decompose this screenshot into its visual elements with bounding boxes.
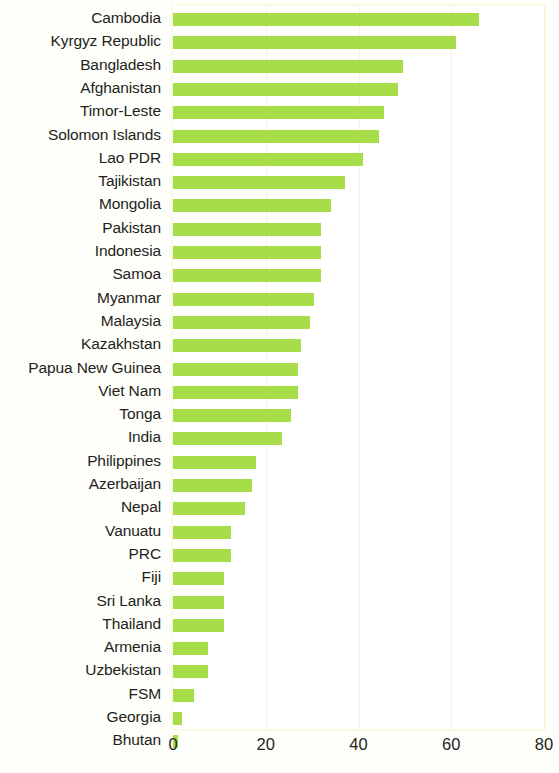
- bar-row: [173, 544, 544, 567]
- bar: [173, 409, 291, 422]
- bar: [173, 153, 363, 166]
- gridline-80: [544, 6, 545, 729]
- category-label: Armenia: [104, 635, 161, 658]
- bar: [173, 386, 298, 399]
- bar-row: [173, 427, 544, 450]
- category-label: Nepal: [121, 495, 161, 518]
- bar: [173, 596, 224, 609]
- category-label: Uzbekistan: [85, 658, 161, 681]
- bar: [173, 479, 252, 492]
- bar: [173, 176, 345, 189]
- x-tick-label: 0: [168, 735, 177, 754]
- bar-row: [173, 78, 544, 101]
- bar-row: [173, 125, 544, 148]
- category-label: Kazakhstan: [81, 332, 161, 355]
- bar-row: [173, 218, 544, 241]
- bar-row: [173, 451, 544, 474]
- category-label: Vanuatu: [105, 519, 161, 542]
- bar: [173, 269, 321, 282]
- bar: [173, 456, 256, 469]
- bar-row: [173, 707, 544, 730]
- bar-row: [173, 101, 544, 124]
- category-label: India: [128, 425, 161, 448]
- bar: [173, 83, 398, 96]
- value-axis-labels: 020406080: [0, 735, 559, 765]
- bar-row: [173, 567, 544, 590]
- category-axis-labels: CambodiaKyrgyz RepublicBangladeshAfghani…: [0, 4, 167, 731]
- bar-row: [173, 521, 544, 544]
- category-label: Samoa: [112, 262, 161, 285]
- bar-row: [173, 614, 544, 637]
- plot-area: [171, 4, 546, 731]
- category-label: Georgia: [107, 705, 161, 728]
- bar-row: [173, 8, 544, 31]
- bar: [173, 106, 384, 119]
- bar: [173, 572, 224, 585]
- bar-row: [173, 194, 544, 217]
- bar: [173, 60, 403, 73]
- bar: [173, 432, 282, 445]
- bar: [173, 316, 310, 329]
- x-tick-label: 80: [535, 735, 553, 754]
- bar-row: [173, 474, 544, 497]
- bar: [173, 339, 301, 352]
- category-label: Malaysia: [101, 309, 161, 332]
- category-label: Papua New Guinea: [28, 356, 161, 379]
- bar: [173, 665, 208, 678]
- category-label: Sri Lanka: [96, 589, 161, 612]
- category-label: PRC: [129, 542, 161, 565]
- bar-row: [173, 404, 544, 427]
- category-label: Pakistan: [102, 216, 161, 239]
- category-label: Azerbaijan: [89, 472, 161, 495]
- bar-row: [173, 684, 544, 707]
- bar-chart-figure: CambodiaKyrgyz RepublicBangladeshAfghani…: [0, 0, 559, 773]
- x-tick-label: 60: [442, 735, 460, 754]
- category-label: FSM: [129, 682, 161, 705]
- bar: [173, 293, 314, 306]
- category-label: Timor-Leste: [80, 99, 161, 122]
- bar-row: [173, 497, 544, 520]
- category-label: Cambodia: [91, 6, 161, 29]
- bar-row: [173, 311, 544, 334]
- bar-row: [173, 660, 544, 683]
- bar: [173, 642, 208, 655]
- bar: [173, 619, 224, 632]
- bar: [173, 36, 456, 49]
- bar-row: [173, 358, 544, 381]
- category-label: Solomon Islands: [48, 123, 161, 146]
- bar: [173, 502, 245, 515]
- category-label: Tonga: [119, 402, 161, 425]
- category-label: Indonesia: [95, 239, 161, 262]
- category-label: Mongolia: [99, 192, 161, 215]
- bar: [173, 199, 331, 212]
- x-tick-label: 40: [349, 735, 367, 754]
- bar-row: [173, 31, 544, 54]
- bar: [173, 130, 379, 143]
- bar-row: [173, 591, 544, 614]
- category-label: Bangladesh: [80, 53, 161, 76]
- bar-row: [173, 171, 544, 194]
- category-label: Kyrgyz Republic: [51, 29, 162, 52]
- bar-row: [173, 637, 544, 660]
- bar-row: [173, 264, 544, 287]
- bar: [173, 689, 194, 702]
- bar-series: [173, 6, 544, 729]
- x-tick-label: 20: [257, 735, 275, 754]
- category-label: Lao PDR: [99, 146, 161, 169]
- bar-row: [173, 334, 544, 357]
- bar: [173, 549, 231, 562]
- category-label: Myanmar: [97, 286, 161, 309]
- bar: [173, 526, 231, 539]
- bar: [173, 363, 298, 376]
- bar-row: [173, 381, 544, 404]
- category-label: Thailand: [102, 612, 161, 635]
- category-label: Tajikistan: [98, 169, 161, 192]
- bar-row: [173, 288, 544, 311]
- bar: [173, 13, 479, 26]
- category-label: Fiji: [142, 565, 161, 588]
- bar: [173, 246, 321, 259]
- category-label: Viet Nam: [98, 379, 161, 402]
- bar-row: [173, 241, 544, 264]
- bar-row: [173, 148, 544, 171]
- bar-row: [173, 55, 544, 78]
